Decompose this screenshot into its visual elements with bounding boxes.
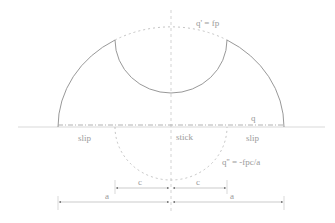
label-slip-right: slip [246,133,260,143]
label-q: q [251,113,256,123]
label-a-right: a [230,191,234,201]
label-stick: stick [176,132,193,142]
label-slip-left: slip [78,133,92,143]
label-q-double-prime: q'' = -fpc/a [222,157,260,167]
label-c-right: c [196,177,200,187]
traction-diagram: q' = fp q slip stick slip q'' = -fpc/a c… [0,0,335,223]
label-q-prime: q' = fp [196,18,220,28]
label-a-left: a [105,191,109,201]
label-c-left: c [138,177,142,187]
